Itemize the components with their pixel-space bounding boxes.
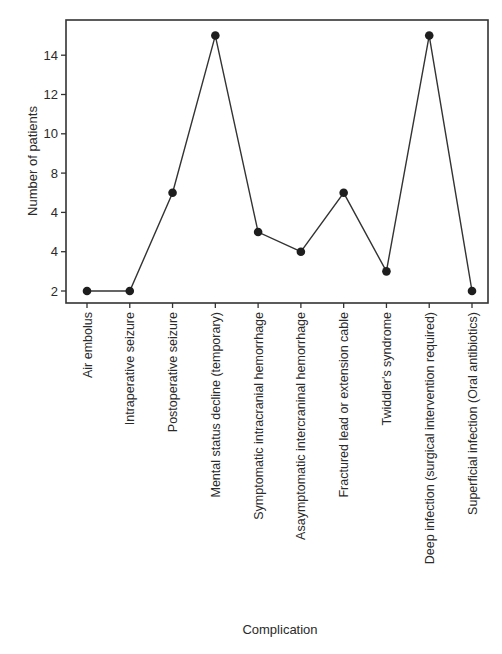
data-point-marker <box>83 287 92 296</box>
x-tick-label: Mental status decline (temporary) <box>209 312 223 498</box>
y-tick-label: 4 <box>51 244 58 259</box>
data-point-marker <box>339 188 348 197</box>
data-point-marker <box>125 287 134 296</box>
x-tick-label: Superficial infection (Oral antibiotics) <box>466 312 480 515</box>
x-tick-label: Intraperative seizure <box>123 312 137 425</box>
y-tick-label: 14 <box>44 48 58 63</box>
x-tick-label: Postoperative seizure <box>166 312 180 432</box>
data-point-marker <box>425 31 434 40</box>
x-tick-label: Air embolus <box>81 312 95 378</box>
x-tick-label: Asaymptomatic intercraninal hemorrhage <box>294 312 308 540</box>
y-axis-title: Number of patients <box>25 106 40 216</box>
x-tick-label: Twiddler's syndrome <box>380 312 394 426</box>
x-tick-label: Deep infection (surgical intervention re… <box>423 312 437 564</box>
data-point-marker <box>382 267 391 276</box>
data-point-marker <box>297 247 306 256</box>
y-tick-label: 2 <box>51 284 58 299</box>
y-axis: 2448101214 <box>44 48 66 299</box>
x-tick-label: Symptomatic intracranial hemorrhage <box>252 312 266 520</box>
data-point-marker <box>254 228 263 237</box>
data-point-marker <box>211 31 220 40</box>
y-tick-label: 4 <box>51 205 58 220</box>
data-point-marker <box>168 188 177 197</box>
series-line <box>87 36 472 291</box>
y-tick-label: 8 <box>51 166 58 181</box>
x-tick-label: Fractured lead or extension cable <box>337 312 351 498</box>
data-series <box>83 31 477 295</box>
y-tick-label: 12 <box>44 87 58 102</box>
data-point-marker <box>468 287 477 296</box>
x-axis: Air embolusIntraperative seizurePostoper… <box>81 303 480 564</box>
x-axis-title: Complication <box>242 622 317 637</box>
y-tick-label: 10 <box>44 126 58 141</box>
line-chart: 2448101214 Air embolusIntraperative seiz… <box>0 0 502 654</box>
